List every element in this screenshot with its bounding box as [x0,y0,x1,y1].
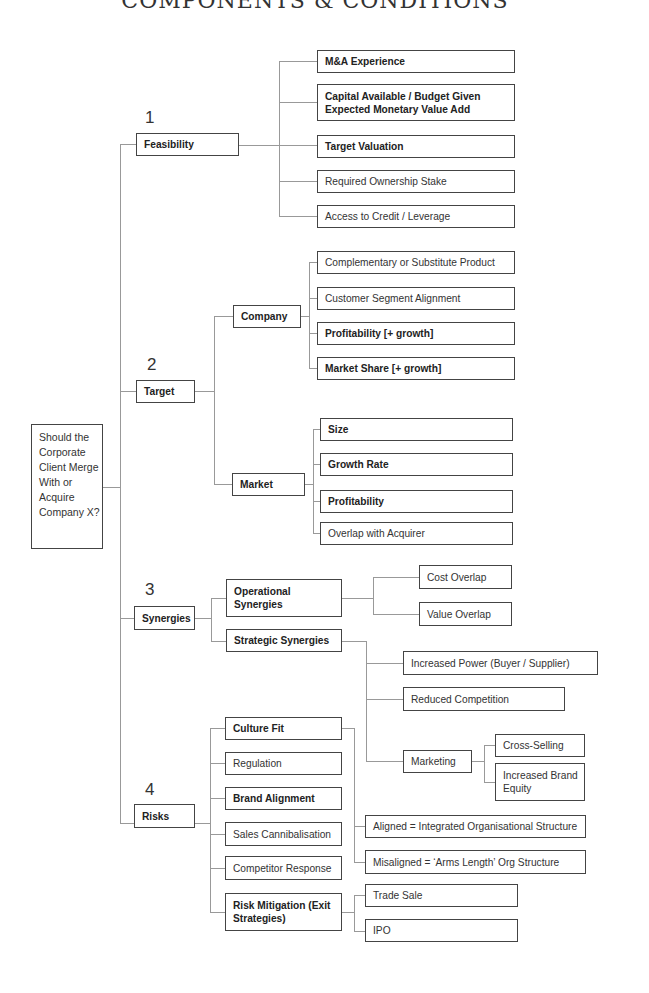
connector [366,641,367,762]
connector [313,429,320,430]
cross-selling-node: Cross-Selling [495,734,585,757]
connector [484,745,495,746]
connector [366,699,403,700]
node-label: Increased Brand Equity [503,769,578,795]
risks-node: Risks [134,804,195,828]
node-label: Market [240,478,273,491]
connector [366,663,403,664]
node-label: Customer Segment Alignment [325,292,460,305]
connector [214,316,233,317]
connector [120,618,134,619]
market-size-node: Size [320,418,513,441]
value-overlap-node: Value Overlap [419,602,512,626]
connector [279,102,317,103]
node-label: M&A Experience [325,55,405,68]
ipo-node: IPO [365,919,518,942]
connector [279,216,317,217]
connector [301,316,309,317]
connector [342,912,354,913]
connector [214,316,215,484]
node-label: Profitability [+ growth] [325,327,433,340]
root-question-label: Should the Corporate Client Merge With o… [39,430,102,520]
node-label: Reduced Competition [411,693,509,706]
overlap-acquirer-node: Overlap with Acquirer [320,522,513,545]
connector [309,262,310,369]
connector [210,728,211,912]
connector [309,262,317,263]
synergies-node: Synergies [134,606,195,630]
node-label: Value Overlap [427,608,491,621]
node-label: Marketing [411,755,456,768]
node-label: Risk Mitigation (Exit Strategies) [233,899,333,925]
misaligned-structure-node: Misaligned = ‘Arms Length’ Org Structure [365,850,586,874]
branch-number: 2 [147,355,156,375]
connector [313,464,320,465]
connector [484,745,485,782]
connector [354,826,365,827]
node-label: Cost Overlap [427,571,486,584]
connector [354,862,365,863]
branch-number: 3 [145,580,154,600]
ownership-stake-node: Required Ownership Stake [317,170,515,193]
node-label: Required Ownership Stake [325,175,447,188]
node-label: Cross-Selling [503,739,564,752]
connector [210,868,225,869]
connector [103,487,120,488]
node-label: Aligned = Integrated Organisational Stru… [373,820,577,833]
node-label: Strategic Synergies [234,634,329,647]
operational-synergies-node: Operational Synergies [226,579,342,617]
branch-number: 1 [145,108,154,128]
complementary-product-node: Complementary or Substitute Product [317,251,515,274]
connector [214,484,232,485]
root-question-node: Should the Corporate Client Merge With o… [31,424,103,549]
connector [366,761,403,762]
capital-available-node: Capital Available / Budget Given Expecte… [317,84,515,121]
strategic-synergies-node: Strategic Synergies [226,629,342,652]
connector [210,798,225,799]
connector [239,145,279,146]
connector [279,61,280,217]
node-label: Regulation [233,757,282,770]
customer-segment-node: Customer Segment Alignment [317,287,515,310]
node-label: Feasibility [144,138,194,151]
increased-power-node: Increased Power (Buyer / Supplier) [403,651,598,675]
node-label: Trade Sale [373,889,422,902]
market-node: Market [232,473,305,496]
node-label: Brand Alignment [233,792,315,805]
connector [120,391,136,392]
connector [195,391,214,392]
node-label: Growth Rate [328,458,389,471]
connector [373,577,374,614]
node-label: Synergies [142,612,191,625]
brand-alignment-node: Brand Alignment [225,787,342,810]
node-label: Complementary or Substitute Product [325,256,495,269]
node-label: Size [328,423,348,436]
ma-experience-node: M&A Experience [317,50,515,73]
aligned-structure-node: Aligned = Integrated Organisational Stru… [365,815,586,838]
node-label: Competitor Response [233,862,332,875]
connector [309,368,317,369]
company-profitability-node: Profitability [+ growth] [317,322,515,345]
connector [279,181,317,182]
cost-overlap-node: Cost Overlap [419,565,512,589]
node-label: Sales Cannibalisation [233,828,331,841]
connector [373,614,419,615]
marketing-node: Marketing [403,750,472,773]
connector [210,728,225,729]
node-label: Market Share [+ growth] [325,362,441,375]
node-label: Risks [142,810,169,823]
sales-cannibalisation-node: Sales Cannibalisation [225,822,342,846]
diagram-title: COMPONENTS & CONDITIONS [105,0,525,13]
connector [373,577,419,578]
connector [120,823,134,824]
connector [313,533,320,534]
connector [211,641,226,642]
connector [279,145,317,146]
connector [210,834,225,835]
company-node: Company [233,305,301,328]
connector [309,333,317,334]
connector [211,598,212,641]
node-label: Access to Credit / Leverage [325,210,450,223]
market-share-node: Market Share [+ growth] [317,357,515,380]
connector [195,618,211,619]
